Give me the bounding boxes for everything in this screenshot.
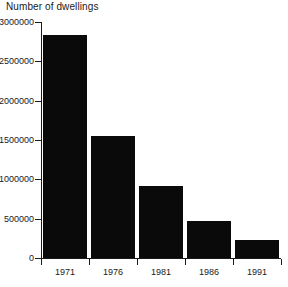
x-axis-tick-label: 1976 — [103, 267, 123, 277]
bar-1991 — [235, 240, 279, 258]
bar-1986 — [187, 221, 231, 258]
bar-chart: Number of dwellings 05000001000000150000… — [0, 0, 288, 287]
y-axis-tick-label: 1000000 — [0, 174, 34, 184]
y-axis-tick-label: 2000000 — [0, 96, 34, 106]
x-axis-tick-label: 1991 — [247, 267, 267, 277]
x-axis-line — [41, 258, 281, 259]
y-axis-tick-labels: 0500000100000015000002000000250000030000… — [0, 0, 34, 287]
x-axis-tick — [137, 259, 138, 265]
bar-1971 — [43, 35, 87, 258]
bar-1981 — [139, 186, 183, 258]
x-axis-tick-label: 1981 — [151, 267, 171, 277]
x-axis-tick — [89, 259, 90, 265]
y-axis-tick-label: 1500000 — [0, 135, 34, 145]
y-axis-tick-label: 2500000 — [0, 56, 34, 66]
bar-1976 — [91, 136, 135, 258]
y-axis-tick-label: 0 — [29, 253, 34, 263]
x-axis-tick-label: 1971 — [55, 267, 75, 277]
x-axis-tick — [281, 259, 282, 265]
x-axis-tick — [185, 259, 186, 265]
plot-area — [41, 22, 281, 258]
x-axis-tick — [233, 259, 234, 265]
x-axis-tick — [41, 259, 42, 265]
y-axis-tick-label: 500000 — [4, 214, 34, 224]
y-axis-tick-label: 3000000 — [0, 17, 34, 27]
x-axis-tick-label: 1986 — [199, 267, 219, 277]
